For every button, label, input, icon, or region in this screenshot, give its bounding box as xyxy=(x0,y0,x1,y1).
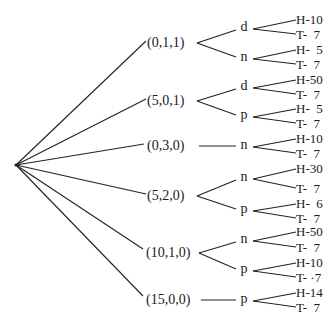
state-node-label: (10,1,0) xyxy=(146,246,190,260)
root-node xyxy=(14,163,17,166)
outcome-leaf-label: H-10 xyxy=(296,256,323,269)
action-node-label: p xyxy=(241,262,248,276)
edge-state-to-action xyxy=(199,242,236,253)
edge-action-to-outcome xyxy=(253,211,296,218)
edge-root-to-state xyxy=(16,165,146,194)
edge-state-to-action xyxy=(197,101,236,115)
edge-action-to-outcome xyxy=(253,204,296,211)
outcome-leaf-label: H- 5 xyxy=(296,43,323,56)
state-node-label: (5,2,0) xyxy=(147,189,184,203)
edge-action-to-outcome xyxy=(253,293,296,301)
decision-tree-diagram: (0,1,1)(5,0,1)(0,3,0)(5,2,0)(10,1,0)(15,… xyxy=(0,0,333,323)
edge-state-to-action xyxy=(197,43,236,57)
edge-action-to-outcome xyxy=(253,50,296,59)
edge-action-to-outcome xyxy=(253,139,296,147)
edge-state-to-action xyxy=(197,89,236,101)
action-node-label: n xyxy=(241,50,248,64)
action-node-label: d xyxy=(241,20,248,34)
outcome-leaf-label: T- 7 xyxy=(296,301,320,314)
edge-action-to-outcome xyxy=(253,117,296,123)
edge-action-to-outcome xyxy=(253,29,296,34)
edge-action-to-outcome xyxy=(253,263,296,271)
state-node-label: (5,0,1) xyxy=(147,94,184,108)
outcome-leaf-label: H-10 xyxy=(296,132,323,145)
action-node-label: d xyxy=(241,79,248,93)
edge-root-to-state xyxy=(16,165,143,296)
outcome-leaf-label: T- 7 xyxy=(296,241,320,254)
action-node-label: n xyxy=(241,138,248,152)
edge-action-to-outcome xyxy=(253,80,296,88)
edge-action-to-outcome xyxy=(253,179,296,188)
outcome-leaf-label: T- ·7 xyxy=(296,271,321,284)
outcome-leaf-label: T- 7 xyxy=(296,88,320,101)
action-node-label: p xyxy=(241,292,248,306)
edge-state-to-action xyxy=(197,180,236,196)
edge-action-to-outcome xyxy=(253,271,296,277)
edge-action-to-outcome xyxy=(253,169,296,179)
edge-action-to-outcome xyxy=(253,241,296,247)
outcome-leaf-label: T- 7 xyxy=(296,182,320,195)
state-node-label: (0,3,0) xyxy=(147,139,184,153)
outcome-leaf-label: H- 5 xyxy=(296,102,323,115)
outcome-leaf-label: H-50 xyxy=(296,225,323,238)
edge-state-to-action xyxy=(199,253,236,269)
edge-state-to-action xyxy=(197,196,236,209)
edge-action-to-outcome xyxy=(253,109,296,117)
edge-state-to-action xyxy=(197,30,236,43)
outcome-leaf-label: H-30 xyxy=(296,162,323,175)
edge-root-to-state xyxy=(16,99,146,165)
state-node-label: (0,1,1) xyxy=(147,36,184,50)
outcome-leaf-label: T- 7 xyxy=(296,147,320,160)
outcome-leaf-label: T- 7 xyxy=(296,28,320,41)
outcome-leaf-label: H-50 xyxy=(296,73,323,86)
edge-action-to-outcome xyxy=(253,232,296,241)
outcome-leaf-label: T- 7 xyxy=(296,117,320,130)
outcome-leaf-label: H- 6 xyxy=(296,197,323,210)
edge-root-to-state xyxy=(16,165,143,249)
edge-action-to-outcome xyxy=(253,59,296,64)
action-node-label: n xyxy=(241,232,248,246)
edge-action-to-outcome xyxy=(253,301,296,307)
action-node-label: p xyxy=(241,202,248,216)
state-node-label: (15,0,0) xyxy=(146,293,190,307)
edge-action-to-outcome xyxy=(253,147,296,153)
edge-action-to-outcome xyxy=(253,20,296,29)
outcome-leaf-label: H-10 xyxy=(296,13,323,26)
action-node-label: p xyxy=(241,108,248,122)
outcome-leaf-label: T- 7 xyxy=(296,58,320,71)
edge-action-to-outcome xyxy=(253,88,296,94)
action-node-label: n xyxy=(241,170,248,184)
outcome-leaf-label: H-14 xyxy=(296,286,323,299)
